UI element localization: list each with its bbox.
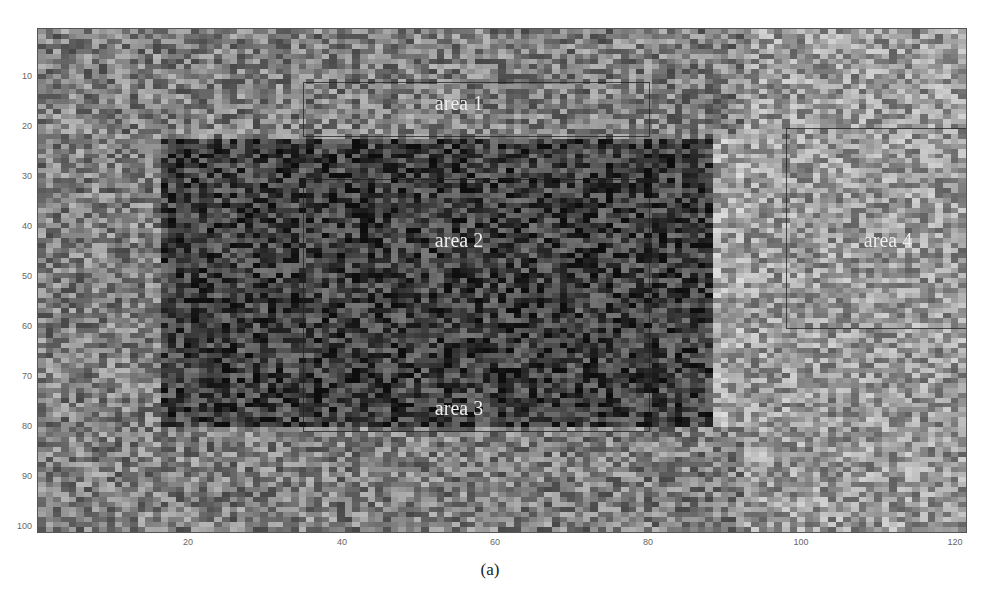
y-tick-label: 40 — [22, 221, 32, 231]
x-tick-label: 40 — [337, 537, 347, 547]
x-tick-label: 100 — [793, 537, 808, 547]
figure: area 1 area 2 area 3 area 4 10 20 30 40 … — [0, 0, 981, 605]
y-tick-label: 70 — [22, 371, 32, 381]
x-tick-label: 60 — [490, 537, 500, 547]
figure-caption: (a) — [481, 560, 500, 580]
y-tick-label: 60 — [22, 321, 32, 331]
y-tick-label: 30 — [22, 171, 32, 181]
y-tick-label: 10 — [22, 71, 32, 81]
heatmap-image — [38, 29, 966, 532]
y-tick-label: 90 — [22, 471, 32, 481]
y-tick-label: 50 — [22, 271, 32, 281]
area-2-label: area 2 — [435, 229, 483, 252]
y-tick-label: 80 — [22, 421, 32, 431]
heatmap-plot-area: area 1 area 2 area 3 area 4 — [37, 28, 967, 533]
y-tick-label: 20 — [22, 121, 32, 131]
area-3-label: area 3 — [435, 397, 483, 420]
x-tick-label: 80 — [643, 537, 653, 547]
x-tick-label: 120 — [947, 537, 962, 547]
area-4-label: area 4 — [864, 229, 912, 252]
x-tick-label: 20 — [183, 537, 193, 547]
y-tick-label: 100 — [17, 521, 32, 531]
area-1-label: area 1 — [435, 92, 483, 115]
